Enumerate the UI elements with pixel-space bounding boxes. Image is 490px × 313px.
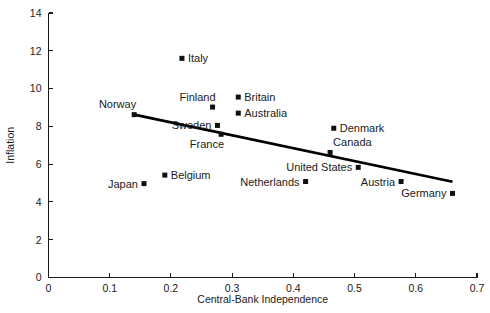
point-label-denmark: Denmark <box>340 122 385 134</box>
point-marker-japan <box>141 181 146 186</box>
data-point: Britain <box>236 91 276 103</box>
y-tick-label: 2 <box>36 234 42 246</box>
x-axis-title: Central-Bank Independence <box>197 293 328 305</box>
point-label-australia: Australia <box>244 107 288 119</box>
data-point: Australia <box>236 107 288 119</box>
axes <box>49 13 478 278</box>
point-label-italy: Italy <box>188 52 209 64</box>
x-tick-label: 0.1 <box>102 282 117 294</box>
data-point: Finland <box>179 91 215 110</box>
point-marker-italy <box>179 56 184 61</box>
axis-titles: Central-Bank IndependenceInflation <box>4 127 328 305</box>
point-marker-canada <box>328 150 333 155</box>
point-marker-france <box>219 132 224 137</box>
point-label-finland: Finland <box>179 91 215 103</box>
x-tick-label: 0.3 <box>225 282 240 294</box>
y-tick-label: 8 <box>36 120 42 132</box>
point-label-france: France <box>190 138 224 150</box>
x-tick-label: 0.7 <box>470 282 485 294</box>
data-point: Norway <box>99 98 137 118</box>
point-label-sweden: Sweden <box>172 119 212 131</box>
axis-lines <box>49 13 478 278</box>
x-tick-label: 0.4 <box>286 282 301 294</box>
data-point: Denmark <box>331 122 385 134</box>
data-point: United States <box>286 161 361 173</box>
x-tick-label: 0.2 <box>164 282 179 294</box>
point-marker-united-states <box>356 165 361 170</box>
y-axis-title: Inflation <box>4 127 16 164</box>
point-marker-germany <box>450 191 455 196</box>
data-point: France <box>190 132 224 151</box>
point-label-germany: Germany <box>401 187 447 199</box>
point-marker-britain <box>236 95 241 100</box>
point-label-austria: Austria <box>361 176 396 188</box>
x-tick-label: 0.6 <box>408 282 423 294</box>
point-marker-sweden <box>215 123 220 128</box>
point-marker-norway <box>132 112 137 117</box>
y-tick-label: 12 <box>30 45 42 57</box>
y-tick-label: 4 <box>36 196 42 208</box>
data-points: NorwayItalyFinlandSwedenFranceBritainAus… <box>99 52 455 199</box>
point-marker-belgium <box>162 173 167 178</box>
data-point: Canada <box>328 136 373 155</box>
axis-ticks <box>49 13 478 278</box>
point-label-netherlands: Netherlands <box>240 176 300 188</box>
data-point: Sweden <box>172 119 220 131</box>
point-marker-denmark <box>331 126 336 131</box>
point-marker-australia <box>236 111 241 116</box>
y-tick-label: 10 <box>30 82 42 94</box>
axis-tick-labels: 00.10.20.30.40.50.60.702468101214 <box>30 7 485 294</box>
y-tick-label: 14 <box>30 7 42 19</box>
plot-canvas: 00.10.20.30.40.50.60.702468101214 Norway… <box>0 0 490 313</box>
point-label-belgium: Belgium <box>171 169 211 181</box>
data-point: Belgium <box>162 169 210 181</box>
data-point: Germany <box>401 187 455 199</box>
point-marker-netherlands <box>303 179 308 184</box>
data-point: Italy <box>179 52 208 64</box>
x-tick-label: 0 <box>46 282 52 294</box>
x-tick-label: 0.5 <box>347 282 362 294</box>
data-point: Austria <box>361 176 404 188</box>
point-label-canada: Canada <box>333 136 372 148</box>
data-point: Japan <box>108 178 146 190</box>
point-marker-finland <box>210 105 215 110</box>
point-label-japan: Japan <box>108 178 138 190</box>
point-label-norway: Norway <box>99 98 137 110</box>
y-tick-label: 6 <box>36 158 42 170</box>
point-marker-austria <box>399 179 404 184</box>
scatter-chart: 00.10.20.30.40.50.60.702468101214 Norway… <box>0 0 490 313</box>
point-label-united-states: United States <box>286 161 353 173</box>
y-tick-label: 0 <box>36 271 42 283</box>
point-label-britain: Britain <box>244 91 275 103</box>
data-point: Netherlands <box>240 176 308 188</box>
